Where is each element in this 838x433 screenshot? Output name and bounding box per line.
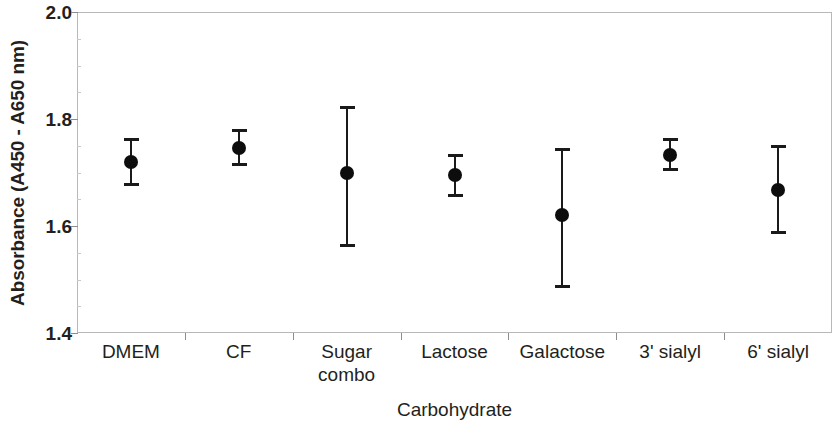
- x-axis-tick-label-group: DMEMCFSugar comboLactoseGalactose3' sial…: [77, 340, 832, 395]
- y-axis-minor-tick: [77, 146, 81, 147]
- y-axis-major-tick: [71, 333, 78, 334]
- y-axis-major-tick: [71, 119, 78, 120]
- error-bar-cap-upper: [124, 138, 139, 141]
- y-axis-minor-tick: [77, 66, 81, 67]
- y-axis-tick-label: 1.8: [32, 110, 72, 129]
- data-marker[interactable]: [232, 141, 246, 155]
- error-bar-cap-lower: [555, 285, 570, 288]
- absorbance-chart-figure: Absorbance (A450 - A650 nm) 2.01.81.61.4…: [0, 0, 838, 433]
- x-axis-tick: [616, 333, 617, 340]
- x-axis-tick-label: DMEM: [77, 340, 185, 363]
- y-axis-tick-label: 2.0: [32, 3, 72, 22]
- x-axis-tick: [185, 333, 186, 340]
- y-axis-major-tick: [71, 12, 78, 13]
- error-bar-cap-lower: [340, 244, 355, 247]
- data-marker[interactable]: [555, 208, 569, 222]
- error-bar-cap-lower: [232, 163, 247, 166]
- data-marker[interactable]: [663, 148, 677, 162]
- data-marker[interactable]: [340, 166, 354, 180]
- error-bar-cap-lower: [448, 194, 463, 197]
- x-axis-tick: [724, 333, 725, 340]
- y-axis-minor-tick: [77, 92, 81, 93]
- error-bar-cap-lower: [771, 231, 786, 234]
- y-axis-tick-label-group: 2.01.81.61.4: [0, 0, 72, 345]
- error-bar-cap-upper: [232, 129, 247, 132]
- plot-area: [77, 12, 832, 333]
- x-axis-tick-label: CF: [185, 340, 293, 363]
- error-bar-cap-upper: [663, 138, 678, 141]
- y-axis-minor-tick: [77, 39, 81, 40]
- y-axis-minor-tick: [77, 253, 81, 254]
- error-bar-cap-lower: [124, 183, 139, 186]
- data-marker[interactable]: [771, 183, 785, 197]
- data-marker[interactable]: [124, 155, 138, 169]
- error-bar-cap-upper: [771, 145, 786, 148]
- error-bar-cap-upper: [448, 154, 463, 157]
- y-axis-minor-tick: [77, 306, 81, 307]
- data-marker[interactable]: [448, 168, 462, 182]
- y-axis-minor-tick: [77, 199, 81, 200]
- x-axis-tick-label: Lactose: [401, 340, 509, 363]
- error-bar-cap-upper: [340, 106, 355, 109]
- y-axis-minor-tick: [77, 173, 81, 174]
- x-axis-tick-label: 3' sialyl: [616, 340, 724, 363]
- y-axis-major-tick: [71, 226, 78, 227]
- x-axis-tick: [293, 333, 294, 340]
- error-bar-cap-lower: [663, 168, 678, 171]
- y-axis-tick-label: 1.6: [32, 217, 72, 236]
- x-axis-tick-label: Galactose: [508, 340, 616, 363]
- error-bar-cap-upper: [555, 148, 570, 151]
- x-axis-tick: [508, 333, 509, 340]
- y-axis-tick-label: 1.4: [32, 324, 72, 343]
- x-axis-tick-label: 6' sialyl: [724, 340, 832, 363]
- x-axis-tick: [401, 333, 402, 340]
- y-axis-minor-tick: [77, 280, 81, 281]
- x-axis-title: Carbohydrate: [77, 399, 832, 421]
- x-axis-tick-label: Sugar combo: [293, 340, 401, 386]
